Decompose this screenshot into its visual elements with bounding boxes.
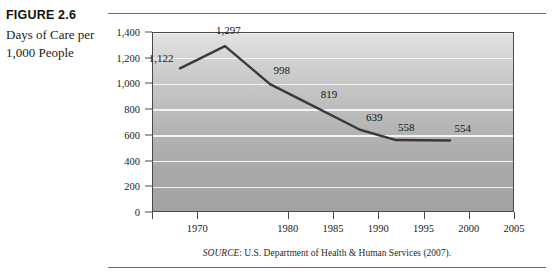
x-axis-tick	[378, 212, 379, 219]
x-axis-tick	[288, 212, 289, 219]
x-axis-tick-label: 1990	[368, 223, 389, 234]
figure-number: FIGURE 2.6	[6, 8, 106, 23]
y-axis-tick	[145, 134, 152, 135]
x-axis-tick	[152, 212, 153, 219]
y-axis-tick	[145, 212, 152, 213]
data-point-label: 558	[398, 121, 415, 133]
y-axis-tick-label: 0	[135, 207, 140, 218]
y-axis-tick	[145, 32, 152, 33]
x-axis-tick-label: 1995	[413, 223, 434, 234]
x-axis-tick	[514, 212, 515, 219]
y-axis-tick	[145, 109, 152, 110]
x-axis-tick-label: 1980	[277, 223, 298, 234]
source-text: : U.S. Department of Health & Human Serv…	[239, 248, 451, 258]
y-axis-tick-label: 600	[124, 129, 140, 140]
line-chart: 02004006008001,0001,2001,400 19701980198…	[108, 24, 546, 264]
y-axis-tick	[145, 83, 152, 84]
figure-title: Days of Care per 1,000 People	[6, 26, 106, 61]
y-axis-tick	[145, 160, 152, 161]
y-axis: 02004006008001,0001,2001,400	[108, 24, 148, 220]
x-axis-tick	[469, 212, 470, 219]
bottom-rule-divider	[108, 267, 546, 268]
figure-caption-block: FIGURE 2.6 Days of Care per 1,000 People	[6, 8, 106, 61]
x-axis-tick-label: 2005	[504, 223, 525, 234]
y-axis-tick	[145, 186, 152, 187]
y-axis-tick-label: 800	[124, 104, 140, 115]
source-label: SOURCE	[203, 248, 239, 258]
x-axis-tick	[197, 212, 198, 219]
x-axis-tick-label: 1985	[323, 223, 344, 234]
top-rule-divider	[108, 13, 546, 14]
y-axis-tick-label: 400	[124, 155, 140, 166]
y-axis-tick-label: 1,000	[116, 78, 140, 89]
source-note: SOURCE: U.S. Department of Health & Huma…	[108, 248, 546, 258]
y-axis-tick-label: 200	[124, 181, 140, 192]
y-axis-tick-label: 1,400	[116, 27, 140, 38]
data-point-label: 998	[273, 64, 290, 76]
data-point-label: 1,297	[216, 24, 241, 36]
x-axis-tick-label: 2000	[458, 223, 479, 234]
x-axis-tick	[424, 212, 425, 219]
x-axis-tick-label: 1970	[187, 223, 208, 234]
x-axis-tick	[333, 212, 334, 219]
data-point-label: 1,122	[149, 52, 174, 64]
data-point-label: 819	[321, 88, 338, 100]
y-axis-tick-label: 1,200	[116, 52, 140, 63]
data-point-label: 639	[366, 111, 383, 123]
data-point-label: 554	[454, 122, 471, 134]
